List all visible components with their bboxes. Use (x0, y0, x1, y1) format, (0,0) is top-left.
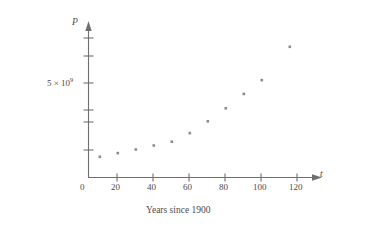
x-tick-label-120: 120 (289, 183, 303, 192)
x-axis-variable-label: t (320, 170, 323, 180)
y-tick-label-5e9: 5 × 109 (47, 77, 73, 88)
y-tick-label-mantissa: 5 × 10 (47, 78, 70, 88)
y-tick-label-exponent: 9 (70, 76, 73, 83)
y-axis-variable-label: P (72, 18, 78, 28)
data-point (117, 152, 120, 155)
data-point (225, 107, 228, 110)
x-axis (89, 174, 323, 182)
x-tick-label-40: 40 (147, 183, 156, 192)
population-scatter-chart: P t 5 × 109 0 20 40 60 80 100 120 Years … (0, 0, 365, 237)
data-point (243, 93, 246, 96)
data-point (153, 144, 156, 147)
x-tick-label-80: 80 (219, 183, 228, 192)
x-tick-label-20: 20 (111, 183, 120, 192)
data-point (171, 140, 174, 143)
data-point (135, 148, 138, 151)
x-tick-label-60: 60 (183, 183, 192, 192)
data-point (189, 132, 192, 135)
x-tick-label-100: 100 (253, 183, 267, 192)
data-point-series (99, 46, 292, 159)
y-axis-arrowhead (85, 21, 91, 31)
chart-canvas (0, 0, 365, 237)
data-point (289, 46, 292, 49)
origin-label: 0 (80, 183, 85, 192)
data-point (99, 156, 102, 159)
data-point (207, 120, 210, 123)
x-axis-caption: Years since 1900 (146, 206, 210, 216)
data-point (261, 79, 264, 82)
y-axis (84, 21, 94, 178)
